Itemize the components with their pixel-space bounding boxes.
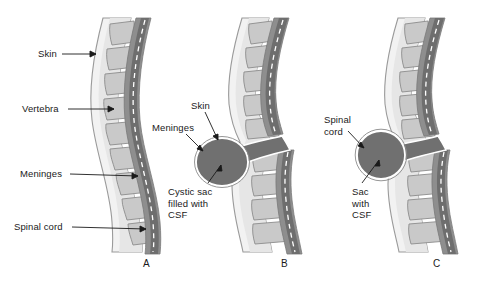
label-spinal-cord-c: Spinal cord xyxy=(324,114,351,137)
panel-a-spine xyxy=(91,18,161,254)
cystic-sac-b xyxy=(196,138,248,186)
figure-canvas: Skin Vertebra Meninges Spinal cord Skin … xyxy=(0,0,492,285)
panel-letter-c: C xyxy=(433,258,440,269)
label-meninges-a: Meninges xyxy=(20,168,62,180)
label-vertebra-a: Vertebra xyxy=(22,103,59,115)
sac-with-csf-c xyxy=(357,131,405,179)
panel-letter-b: B xyxy=(281,258,288,269)
label-sac-with-csf-c: Sac with CSF xyxy=(352,186,371,221)
anatomy-illustration xyxy=(0,0,492,285)
label-spinal-cord-a: Spinal cord xyxy=(14,221,63,233)
label-meninges-b: Meninges xyxy=(152,122,194,134)
label-skin-a: Skin xyxy=(38,48,57,60)
label-cystic-sac-b: Cystic sac filled with CSF xyxy=(168,186,212,221)
label-skin-b: Skin xyxy=(191,100,210,112)
panel-letter-a: A xyxy=(143,258,150,269)
